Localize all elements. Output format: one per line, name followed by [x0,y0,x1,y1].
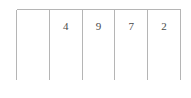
data-table: 4 9 7 2 [16,9,181,80]
table-cell-value-4: 7 [115,20,147,32]
table-cell-2[interactable]: 4 [49,10,82,80]
table-row: 4 9 7 2 [17,10,181,80]
screenshot-root: 4 9 7 2 [0,0,191,98]
table-body: 4 9 7 2 [17,10,181,81]
table-cell-value-5: 2 [148,20,180,32]
table-cell-value-1 [17,20,49,32]
table-cell-value-2: 4 [50,20,82,32]
table-cell-4[interactable]: 7 [115,10,148,80]
table-cell-value-3: 9 [83,20,115,32]
table-cell-3[interactable]: 9 [82,10,115,80]
table-cell-5[interactable]: 2 [148,10,181,80]
table-cell-1[interactable] [17,10,50,80]
